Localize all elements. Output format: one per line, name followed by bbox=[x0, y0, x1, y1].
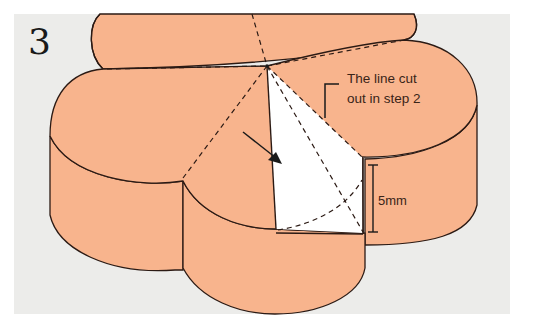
measurement-label: 5mm bbox=[378, 193, 407, 209]
flower-box-illustration bbox=[0, 0, 534, 333]
callout-label-line2: out in step 2 bbox=[347, 89, 421, 109]
center-point bbox=[265, 64, 269, 68]
step-number: 3 bbox=[28, 22, 51, 62]
callout-label: The line cut out in step 2 bbox=[347, 69, 421, 109]
callout-label-line1: The line cut bbox=[347, 69, 421, 89]
